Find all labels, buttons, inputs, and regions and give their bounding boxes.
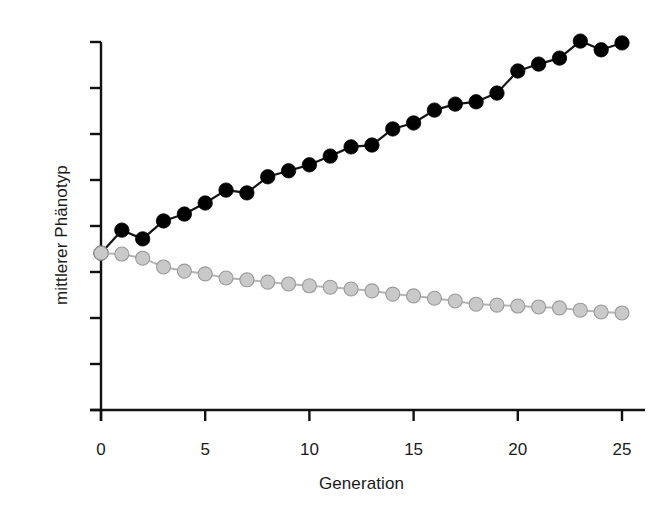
chart-figure: mittlerer Phänotyp Generation 0510152025 <box>0 0 672 521</box>
x-axis-label: Generation <box>101 474 622 494</box>
series-2-point-0 <box>94 246 108 260</box>
series-1-point-9 <box>281 164 295 178</box>
series-2-point-6 <box>219 271 233 285</box>
series-1-point-18 <box>469 95 483 109</box>
series-2-point-12 <box>344 282 358 296</box>
series-1-point-3 <box>156 214 170 228</box>
series-2-point-25 <box>615 306 629 320</box>
series-2-point-19 <box>490 298 504 312</box>
x-axis-tick-label-2: 10 <box>289 440 329 460</box>
series-2-point-10 <box>302 279 316 293</box>
x-axis-tick-label-0: 0 <box>81 440 121 460</box>
series-2-point-23 <box>573 303 587 317</box>
series-1-point-5 <box>198 196 212 210</box>
series-2-point-2 <box>136 251 150 265</box>
series-2-point-14 <box>386 287 400 301</box>
series-1-point-2 <box>135 232 149 246</box>
series-2-point-4 <box>177 264 191 278</box>
x-axis-tick-label-1: 5 <box>185 440 225 460</box>
series-1-point-21 <box>531 57 545 71</box>
x-axis-tick-label-3: 15 <box>394 440 434 460</box>
series-1-line <box>101 41 622 253</box>
series-1-point-22 <box>552 51 566 65</box>
series-1-point-13 <box>365 138 379 152</box>
series-2-point-20 <box>511 299 525 313</box>
series-2-point-15 <box>407 289 421 303</box>
series-1-point-6 <box>219 183 233 197</box>
x-axis-tick-label-5: 25 <box>602 440 642 460</box>
series-1-point-1 <box>115 223 129 237</box>
series-1-point-15 <box>406 116 420 130</box>
series-1-point-17 <box>448 97 462 111</box>
series-2-point-1 <box>115 247 129 261</box>
series-2-point-21 <box>532 300 546 314</box>
series-2-point-9 <box>282 277 296 291</box>
series-1-point-14 <box>386 122 400 136</box>
series-1-point-12 <box>344 140 358 154</box>
series-2-point-22 <box>552 301 566 315</box>
series-2-point-11 <box>323 280 337 294</box>
series-1-point-8 <box>261 170 275 184</box>
series-2-point-8 <box>261 275 275 289</box>
series-1-point-20 <box>511 64 525 78</box>
series-1-point-10 <box>302 158 316 172</box>
series-2-point-13 <box>365 284 379 298</box>
series-2-point-7 <box>240 273 254 287</box>
series-1-point-24 <box>594 43 608 57</box>
series-2-point-3 <box>157 260 171 274</box>
series-1-point-19 <box>490 86 504 100</box>
series-1-point-16 <box>427 103 441 117</box>
series-1-point-25 <box>615 36 629 50</box>
series-2-point-18 <box>469 297 483 311</box>
series-2 <box>94 246 629 320</box>
series-1-point-23 <box>573 34 587 48</box>
series-2-point-17 <box>448 294 462 308</box>
series-1-point-7 <box>240 186 254 200</box>
series-2-point-16 <box>427 291 441 305</box>
series-2-point-24 <box>594 305 608 319</box>
series-2-point-5 <box>198 267 212 281</box>
x-axis-tick-label-4: 20 <box>498 440 538 460</box>
series-1 <box>94 34 629 260</box>
series-1-point-4 <box>177 207 191 221</box>
series-1-point-11 <box>323 149 337 163</box>
